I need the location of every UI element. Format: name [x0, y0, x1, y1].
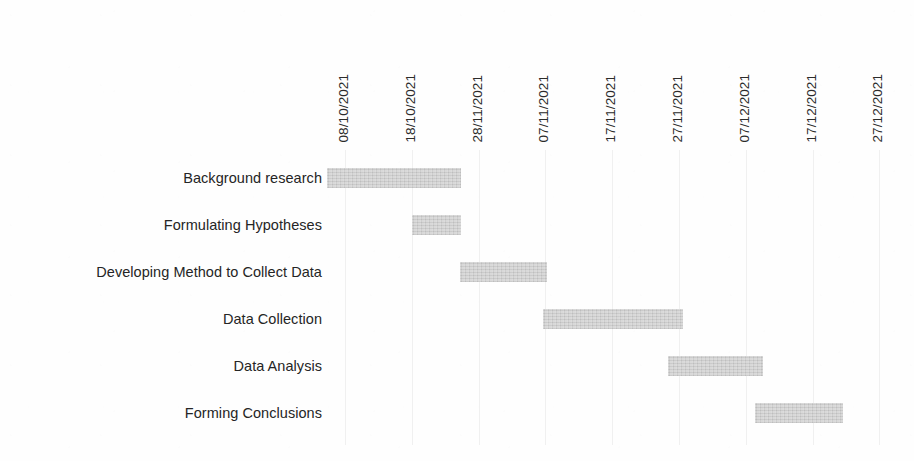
task-bar[interactable] — [327, 168, 461, 188]
x-tick-label: 07/11/2021 — [537, 74, 551, 142]
x-tick-label: 08/10/2021 — [337, 73, 351, 142]
task-row[interactable]: Forming Conclusions — [0, 398, 914, 428]
task-row[interactable]: Developing Method to Collect Data — [0, 257, 914, 287]
x-tick-label: 17/12/2021 — [804, 73, 818, 142]
task-label: Data Analysis — [0, 351, 322, 381]
task-label: Data Collection — [0, 304, 322, 334]
x-tick-label: 27/12/2021 — [871, 73, 885, 142]
x-axis: 08/10/202118/10/202128/11/202107/11/2021… — [0, 0, 914, 150]
x-tick-label: 07/12/2021 — [737, 73, 751, 142]
task-label: Background research — [0, 163, 322, 193]
task-label: Formulating Hypotheses — [0, 210, 322, 240]
x-tick-label: 27/11/2021 — [671, 74, 685, 142]
task-row[interactable]: Formulating Hypotheses — [0, 210, 914, 240]
x-tick-label: 18/10/2021 — [403, 73, 417, 142]
task-bar[interactable] — [543, 309, 683, 329]
task-bar[interactable] — [668, 356, 763, 376]
x-tick-label: 28/11/2021 — [470, 74, 484, 142]
task-row[interactable]: Data Analysis — [0, 351, 914, 381]
task-bar[interactable] — [412, 215, 461, 235]
task-label: Developing Method to Collect Data — [0, 257, 322, 287]
task-row[interactable]: Background research — [0, 163, 914, 193]
x-tick-label: 17/11/2021 — [604, 74, 618, 142]
task-label: Forming Conclusions — [0, 398, 322, 428]
task-bar[interactable] — [460, 262, 547, 282]
task-bar[interactable] — [755, 403, 843, 423]
gantt-chart: 08/10/202118/10/202128/11/202107/11/2021… — [0, 0, 914, 461]
task-row[interactable]: Data Collection — [0, 304, 914, 334]
